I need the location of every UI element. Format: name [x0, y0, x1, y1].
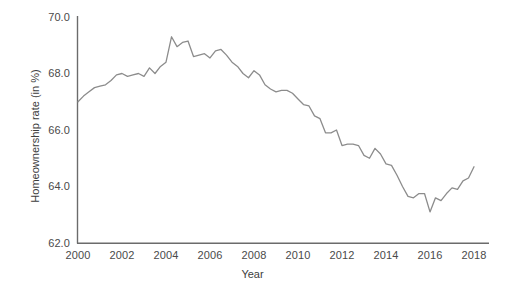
- x-tick-label-2018: 2018: [452, 249, 496, 261]
- x-tick-label-2008: 2008: [232, 249, 276, 261]
- x-tick-label-2002: 2002: [100, 249, 144, 261]
- y-tick-label-62: 62.0: [26, 237, 70, 249]
- x-tick-label-2012: 2012: [320, 249, 364, 261]
- data-series-line: [78, 37, 474, 212]
- y-tick-label-70: 70.0: [26, 11, 70, 23]
- x-axis-title: Year: [0, 268, 505, 280]
- x-tick-label-2016: 2016: [408, 249, 452, 261]
- x-tick-label-2004: 2004: [144, 249, 188, 261]
- y-axis-title: Homeownership rate (in %): [29, 56, 41, 216]
- homeownership-rate-line-chart: 70.0 68.0 66.0 64.0 62.0 2000 2002 2004 …: [0, 0, 505, 294]
- x-tick-label-2014: 2014: [364, 249, 408, 261]
- x-tick-label-2000: 2000: [56, 249, 100, 261]
- x-tick-label-2010: 2010: [276, 249, 320, 261]
- x-tick-label-2006: 2006: [188, 249, 232, 261]
